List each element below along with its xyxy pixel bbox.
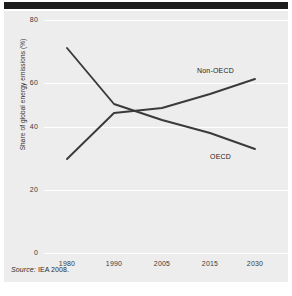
source-prefix: Source: [11,266,36,273]
series-label-oecd: OECD [210,153,231,160]
x-tick-label-1990: 1990 [99,260,129,267]
source-value: IEA 2008. [38,266,69,273]
chart-plot-panel: 80 60 40 20 0 Share of global energy emi… [4,11,288,282]
chart-lines-svg [4,11,288,282]
x-tick-label-2015: 2015 [195,260,225,267]
figure-container: 80 60 40 20 0 Share of global energy emi… [0,0,292,296]
series-line-oecd [67,48,255,149]
x-tick-label-2005: 2005 [147,260,177,267]
x-tick-label-2030: 2030 [240,260,270,267]
source-note: Source: IEA 2008. [11,266,69,273]
top-banner-bar [4,2,288,9]
series-label-non-oecd: Non-OECD [197,67,234,74]
